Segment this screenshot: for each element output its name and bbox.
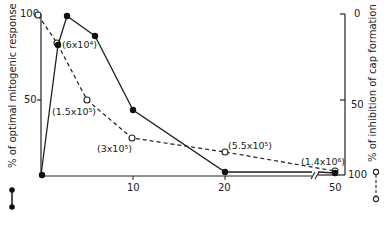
right-axis: 0 50 100 (340, 8, 367, 180)
dual-axis-line-chart: 100 50 % of optimal mitogenic response 1… (0, 0, 387, 226)
right-tick-100: 100 (348, 169, 367, 180)
left-axis-title: % of optimal mitogenic response (7, 3, 18, 168)
legend-solid-series-icon (9, 187, 15, 210)
data-point (222, 169, 228, 175)
series-mitogenic-response (39, 13, 338, 178)
right-tick-0: 0 (354, 8, 360, 19)
right-tick-50: 50 (351, 99, 364, 110)
x-tick-10: 10 (127, 182, 140, 193)
data-point (129, 135, 135, 141)
data-point (55, 42, 61, 48)
annotation-3x10e5: (3x10⁵) (97, 143, 132, 154)
series-cap-inhibition (35, 12, 338, 174)
annotation-1.5x10e5: (1.5x10⁵) (52, 106, 96, 117)
data-point (332, 170, 338, 176)
annotation-1.4x10e6: (1.4x10⁶) (301, 156, 345, 167)
left-axis: 100 50 (20, 8, 41, 176)
x-tick-20: 20 (218, 182, 231, 193)
data-point (84, 97, 90, 103)
data-point (130, 107, 136, 113)
legend-dashed-series-icon (373, 169, 378, 201)
right-axis-title: % of inhibition of cap formation (367, 4, 378, 162)
x-axis: 10 20 50 (41, 172, 345, 193)
x-tick-50: 50 (329, 182, 342, 193)
data-point (39, 172, 45, 178)
annotation-5.5x10e5: (5.5x10⁵) (228, 140, 272, 151)
data-point (35, 12, 41, 18)
left-tick-50: 50 (24, 94, 37, 105)
annotation-6x10e4: (6x10⁴) (62, 39, 97, 50)
data-point (64, 13, 70, 19)
